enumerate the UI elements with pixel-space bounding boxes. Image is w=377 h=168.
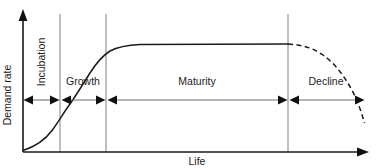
phase-label-decline: Decline xyxy=(308,75,343,87)
phase-label-incubation: Incubation xyxy=(35,38,47,87)
y-axis-label: Demand rate xyxy=(1,64,13,125)
incubation-span-right-arrowhead-icon xyxy=(50,96,60,105)
phase-span-decline xyxy=(290,96,365,105)
x-axis-arrowhead-icon xyxy=(357,148,369,157)
x-axis-label: Life xyxy=(189,155,206,167)
y-axis xyxy=(19,9,28,152)
decline-span-left-arrowhead-icon xyxy=(290,96,300,105)
phase-span-incubation xyxy=(24,96,60,105)
decline-span-right-arrowhead-icon xyxy=(355,96,365,105)
maturity-span-right-arrowhead-icon xyxy=(278,96,288,105)
y-axis-arrowhead-icon xyxy=(19,9,28,21)
phase-label-growth: Growth xyxy=(66,75,100,87)
product-life-cycle-diagram: Demand rate Life Incubation Growth Matur… xyxy=(0,0,377,168)
phase-span-growth xyxy=(62,96,106,105)
life-cycle-chart-canvas: Demand rate Life Incubation Growth Matur… xyxy=(0,0,377,168)
demand-curve-solid xyxy=(23,44,288,150)
maturity-span-left-arrowhead-icon xyxy=(108,96,118,105)
growth-span-right-arrowhead-icon xyxy=(96,96,106,105)
phase-span-maturity xyxy=(108,96,288,105)
growth-span-left-arrowhead-icon xyxy=(62,96,72,105)
phase-label-maturity: Maturity xyxy=(178,75,216,87)
incubation-span-left-arrowhead-icon xyxy=(24,96,34,105)
